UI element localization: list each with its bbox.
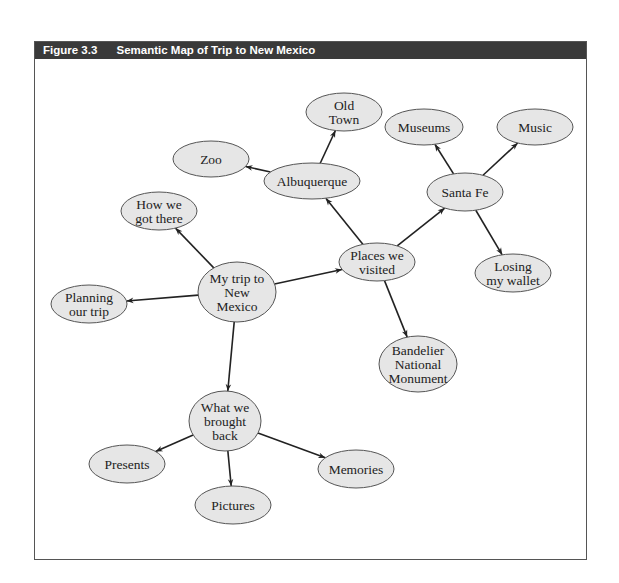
node-brought: What webroughtback	[189, 391, 261, 451]
node-albq: Albuquerque	[264, 163, 360, 199]
node-label-line: visited	[359, 262, 395, 277]
node-center: My trip toNewMexico	[198, 262, 276, 322]
arrow-center-to-brought	[228, 322, 234, 391]
node-label-line: Pictures	[211, 498, 255, 513]
node-label-line: New	[224, 285, 250, 300]
node-label-line: How we	[136, 197, 181, 212]
node-label-line: Losing	[494, 259, 532, 274]
node-label-line: got there	[135, 211, 183, 226]
arrow-center-to-howgot	[175, 228, 213, 268]
node-zoo: Zoo	[173, 141, 249, 177]
node-wallet: Losingmy wallet	[475, 254, 551, 292]
node-planning: Planningour trip	[51, 285, 127, 323]
node-label-line: Museums	[398, 120, 451, 135]
node-label-line: National	[395, 357, 442, 372]
node-bandelier: BandelierNationalMonument	[379, 336, 457, 392]
node-label-line: Albuquerque	[277, 174, 347, 189]
node-museums: Museums	[385, 109, 463, 145]
arrow-places-to-bandelier	[384, 281, 407, 337]
node-label-line: brought	[204, 414, 246, 429]
arrow-places-to-santafe	[397, 208, 445, 246]
node-label-line: Memories	[329, 462, 384, 477]
node-label-line: What we	[201, 400, 249, 415]
node-santafe: Santa Fe	[427, 173, 503, 211]
arrow-albq-to-oldtown	[320, 131, 335, 164]
node-memories: Memories	[318, 450, 394, 488]
node-label-line: Old	[334, 98, 355, 113]
node-label-line: My trip to	[210, 271, 265, 286]
node-label-line: Places we	[350, 248, 404, 263]
nodes-layer: My trip toNewMexicoHow wegot therePlanni…	[51, 93, 573, 524]
node-label-line: Santa Fe	[442, 185, 489, 200]
arrow-santafe-to-wallet	[476, 210, 502, 255]
node-label-line: Mexico	[216, 299, 257, 314]
arrow-santafe-to-museums	[435, 144, 454, 174]
node-howgot: How wegot there	[121, 192, 197, 230]
node-label-line: Music	[518, 120, 552, 135]
arrow-center-to-planning	[127, 295, 199, 301]
node-label-line: my wallet	[486, 273, 540, 288]
arrow-center-to-places	[275, 269, 343, 283]
arrow-albq-to-zoo	[246, 167, 271, 172]
arrow-brought-to-pictures	[228, 451, 231, 486]
node-label-line: Planning	[65, 290, 113, 305]
node-label-line: Bandelier	[392, 343, 445, 358]
arrow-places-to-albq	[326, 198, 363, 244]
arrow-brought-to-memories	[258, 433, 325, 458]
node-pictures: Pictures	[195, 486, 271, 524]
node-label-line: back	[212, 428, 238, 443]
node-presents: Presents	[89, 445, 165, 483]
node-oldtown: OldTown	[306, 93, 382, 131]
node-label-line: Monument	[388, 371, 447, 386]
node-music: Music	[497, 109, 573, 145]
node-label-line: Zoo	[200, 152, 222, 167]
semantic-map: My trip toNewMexicoHow wegot therePlanni…	[0, 0, 619, 583]
node-label-line: Presents	[105, 457, 150, 472]
arrow-santafe-to-music	[483, 143, 518, 175]
node-label-line: our trip	[69, 304, 109, 319]
node-label-line: Town	[329, 112, 360, 127]
node-places: Places wevisited	[339, 243, 415, 281]
arrow-brought-to-presents	[156, 435, 194, 451]
